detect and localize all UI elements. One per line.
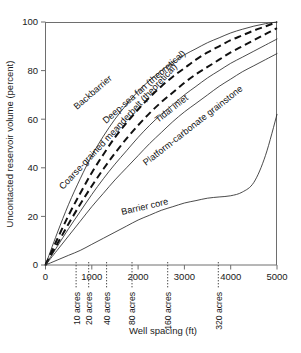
acre-label-320: 320 acres <box>214 292 224 330</box>
y-tick-label-60: 60 <box>27 114 38 125</box>
x-axis-ticks <box>46 265 278 270</box>
curve-label-coarse-grained-meanderbelt: Coarse-grained meanderbelt (theoretical) <box>57 62 179 192</box>
curve-label-tidal-inlet: Tidal inlet <box>153 92 190 124</box>
x-tick-label-3000: 3000 <box>174 271 195 282</box>
x-tick-label-1000: 1000 <box>81 271 102 282</box>
x-tick-label-2000: 2000 <box>128 271 149 282</box>
y-tick-label-0: 0 <box>33 259 38 270</box>
x-axis-title: Well spacing (ft) <box>129 325 197 336</box>
acre-label-40: 40 acres <box>102 292 112 325</box>
x-axis-tick-labels: 0 1000 2000 3000 4000 5000 <box>43 271 288 282</box>
y-axis-title: Uncontacted reservoir volume (percent) <box>4 61 15 228</box>
y-axis-ticks <box>41 22 46 265</box>
curve-label-deep-sea-fan: Deep-sea fan (theoretical) <box>101 48 188 125</box>
y-tick-label-40: 40 <box>27 162 38 173</box>
acre-label-80: 80 acres <box>127 292 137 325</box>
well-spacing-chart: 0 20 40 60 80 100 Uncontacted reservoir … <box>0 0 301 353</box>
y-tick-label-100: 100 <box>22 16 38 27</box>
x-tick-label-4000: 4000 <box>220 271 241 282</box>
curve-label-barrier-core: Barrier core <box>120 196 169 217</box>
y-axis-tick-labels: 0 20 40 60 80 100 <box>22 16 38 270</box>
y-tick-label-20: 20 <box>27 211 38 222</box>
curve-label-platform-carbonate-grainstone: Platform-carbonate grainstone <box>141 84 245 168</box>
x-tick-label-5000: 5000 <box>266 271 287 282</box>
x-tick-label-0: 0 <box>43 271 48 282</box>
chart-container: 0 20 40 60 80 100 Uncontacted reservoir … <box>0 0 301 353</box>
acre-label-10: 10 acres <box>72 292 82 325</box>
curve-barrier-core <box>46 114 278 265</box>
curve-labels: Backbarrier Deep-sea fan (theoretical) C… <box>57 48 244 217</box>
acre-label-20: 20 acres <box>84 292 94 325</box>
curve-label-backbarrier: Backbarrier <box>72 73 114 111</box>
y-tick-label-80: 80 <box>27 65 38 76</box>
